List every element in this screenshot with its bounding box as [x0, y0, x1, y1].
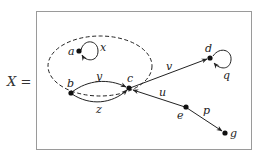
edge-label-z: z — [95, 103, 102, 116]
node-label-c: c — [127, 72, 133, 85]
edge-label-v: v — [166, 60, 173, 73]
node-g — [222, 130, 227, 135]
node-label-g: g — [230, 127, 237, 140]
node-label-b: b — [67, 77, 74, 90]
edge-label-q: q — [223, 69, 230, 82]
node-d — [207, 55, 212, 60]
edge-label-x: x — [100, 41, 107, 54]
edge-label-y: y — [95, 70, 103, 83]
node-a — [76, 48, 81, 53]
edge-x-loop — [81, 42, 98, 60]
node-b — [68, 90, 73, 95]
edge-label-u: u — [159, 86, 166, 99]
node-e — [183, 104, 188, 109]
node-label-d: d — [205, 42, 212, 55]
graph-diagram: X = x y z v q u p a b c d e g — [0, 0, 258, 157]
set-label: X = — [6, 74, 31, 89]
edge-q-loop — [213, 50, 231, 68]
edge-label-p: p — [203, 104, 210, 117]
node-label-e: e — [177, 109, 184, 122]
node-c — [126, 85, 131, 90]
node-label-a: a — [68, 45, 75, 58]
